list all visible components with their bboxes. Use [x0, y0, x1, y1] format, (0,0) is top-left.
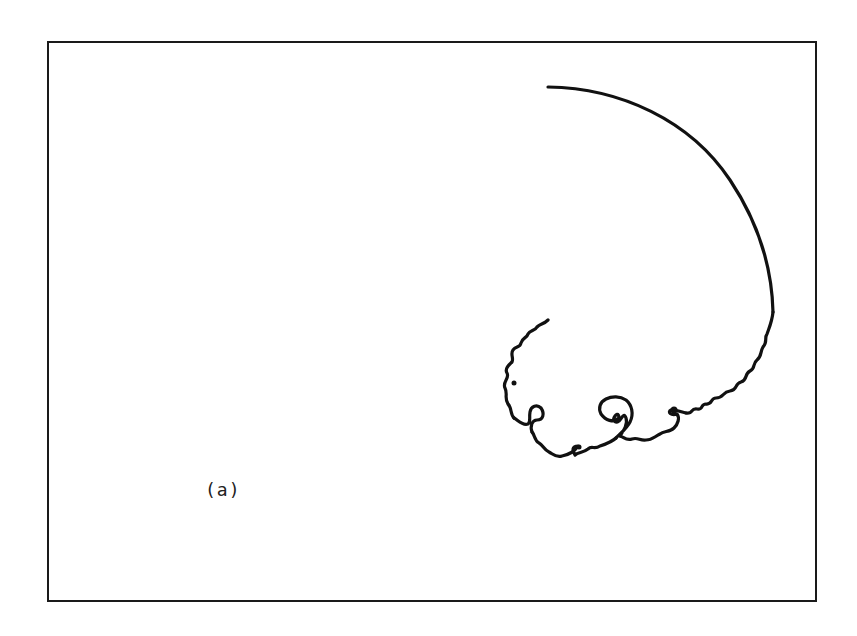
trajectory-curve	[0, 0, 857, 636]
wavy-left-segment	[504, 320, 548, 418]
small-left-loop	[514, 406, 543, 432]
wavy-right-segment	[686, 312, 773, 413]
ink-dot	[671, 407, 678, 414]
wavy-bottom-segment	[532, 432, 616, 457]
outer-arc	[548, 87, 773, 312]
ink-dot	[615, 418, 620, 423]
ink-dot	[512, 381, 517, 386]
panel-label: (a)	[205, 479, 241, 500]
big-loop	[600, 397, 632, 438]
ink-dot	[577, 445, 582, 450]
